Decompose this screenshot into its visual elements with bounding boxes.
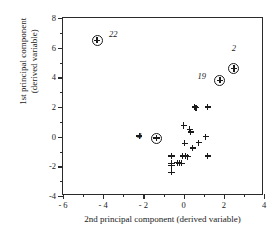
x-axis-tick [103, 194, 104, 199]
y-axis-minor-tick [60, 152, 63, 153]
y-axis-tick [58, 48, 63, 49]
y-axis-minor-tick [60, 63, 63, 64]
y-axis-tick-label: 8 [52, 14, 56, 23]
x-axis-minor-tick [244, 194, 245, 197]
y-axis-tick-label: -2 [49, 162, 56, 171]
x-axis-tick-label: 0 [181, 201, 185, 210]
x-axis-tick-label: - 2 [139, 201, 148, 210]
y-axis-tick [58, 166, 63, 167]
data-point-highlight-ring [151, 133, 162, 144]
x-axis-tick [143, 194, 144, 199]
y-axis-tick-label: -4 [49, 192, 56, 201]
data-point-label: 22 [109, 30, 118, 39]
x-axis-tick-label: 4 [262, 201, 266, 210]
y-axis-tick [58, 137, 63, 138]
y-axis-tick-label: 2 [52, 103, 56, 112]
y-axis-title-line2: (derived variable) [29, 0, 40, 150]
x-axis-minor-tick [123, 194, 124, 197]
x-axis-tick [264, 194, 265, 199]
y-axis-tick-label: 6 [52, 43, 56, 52]
y-axis-minor-tick [60, 181, 63, 182]
x-axis-title: 2nd principal component (derived variabl… [62, 215, 263, 225]
data-point-label: 2 [232, 43, 236, 52]
y-axis-tick [58, 107, 63, 108]
y-axis-tick [58, 77, 63, 78]
x-axis-tick-label: - 4 [99, 201, 108, 210]
data-point-highlight-ring [214, 75, 225, 86]
data-point-label: 19 [197, 72, 206, 81]
x-axis-minor-tick [164, 194, 165, 197]
plot-area: -4-202468- 6- 4- 2024222194 [62, 17, 263, 195]
x-axis-tick-label: 2 [222, 201, 226, 210]
x-axis-tick [184, 194, 185, 199]
data-point-highlight-ring [92, 35, 103, 46]
y-axis-minor-tick [60, 33, 63, 34]
y-axis-minor-tick [60, 122, 63, 123]
y-axis-tick [58, 18, 63, 19]
y-axis-tick-label: 4 [52, 73, 56, 82]
y-axis-minor-tick [60, 92, 63, 93]
x-axis-minor-tick [204, 194, 205, 197]
y-axis-title: 1st principal component (derived variabl… [18, 0, 41, 150]
x-axis-tick [224, 194, 225, 199]
y-axis-tick-label: 0 [52, 132, 56, 141]
x-axis-minor-tick [83, 194, 84, 197]
data-point-highlight-ring [228, 63, 239, 74]
y-axis-title-line1: 1st principal component [18, 18, 28, 105]
x-axis-tick [63, 194, 64, 199]
scatter-plot-figure: 1st principal component (derived variabl… [0, 0, 280, 237]
x-axis-tick-label: - 6 [58, 201, 67, 210]
